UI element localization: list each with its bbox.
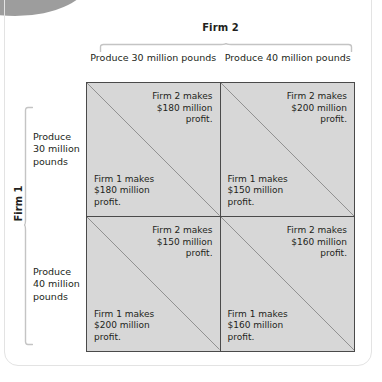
column-strategy-labels: Produce 30 million pounds Produce 40 mil… — [86, 52, 355, 65]
firm2-payoff-text: Firm 2 makes $200 million profit. — [287, 91, 347, 126]
firm2-payoff-text: Firm 2 makes $180 million profit. — [152, 91, 212, 126]
payoff-cell-row2-col1: Firm 2 makes $150 million profit. Firm 1… — [87, 217, 221, 351]
column-strategy-label-2: Produce 40 million pounds — [221, 52, 356, 65]
firm2-payoff-text: Firm 2 makes $160 million profit. — [287, 225, 347, 260]
firm1-payoff-text: Firm 1 makes $180 million profit. — [94, 174, 154, 209]
row-strategy-label-2: Produce 40 million pounds — [33, 217, 83, 352]
firm1-payoff-text: Firm 1 makes $150 million profit. — [228, 174, 288, 209]
payoff-cell-row1-col1: Firm 2 makes $180 million profit. Firm 1… — [87, 83, 221, 217]
column-player-title: Firm 2 — [86, 22, 355, 33]
payoff-matrix: Firm 2 makes $180 million profit. Firm 1… — [86, 82, 355, 352]
row-strategy-label-1: Produce 30 million pounds — [33, 82, 83, 217]
row-player-title: Firm 1 — [13, 174, 24, 234]
firm1-payoff-text: Firm 1 makes $160 million profit. — [228, 309, 288, 344]
row-strategy-labels: Produce 30 million pounds Produce 40 mil… — [33, 82, 83, 352]
firm2-payoff-text: Firm 2 makes $150 million profit. — [152, 225, 212, 260]
column-strategy-label-1: Produce 30 million pounds — [86, 52, 221, 65]
payoff-cell-row1-col2: Firm 2 makes $200 million profit. Firm 1… — [221, 83, 355, 217]
payoff-cell-row2-col2: Firm 2 makes $160 million profit. Firm 1… — [221, 217, 355, 351]
row-brace-icon — [24, 106, 33, 346]
column-brace-icon — [99, 43, 353, 52]
firm1-payoff-text: Firm 1 makes $200 million profit. — [94, 309, 154, 344]
